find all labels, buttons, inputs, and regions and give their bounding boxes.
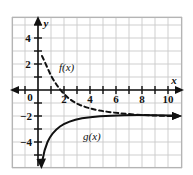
- x-tick-label-10: 10: [163, 93, 175, 105]
- graph-figure: 4 2 0 −2 −4 2 4 6 8 10 y x f(x) g(x): [0, 0, 193, 175]
- g-curve-label: g(x): [83, 130, 101, 143]
- x-tick-label-8: 8: [139, 93, 145, 105]
- y-axis-label: y: [42, 17, 49, 29]
- y-tick-label-neg2: −2: [20, 110, 32, 122]
- x-axis-label: x: [170, 74, 177, 86]
- f-curve-label: f(x): [59, 61, 75, 74]
- y-tick-label-neg4: −4: [20, 136, 32, 148]
- coordinate-plane-svg: 4 2 0 −2 −4 2 4 6 8 10 y x f(x) g(x): [0, 0, 193, 175]
- x-tick-label-4: 4: [87, 93, 93, 105]
- y-tick-label-2: 2: [25, 58, 31, 70]
- y-tick-label-4: 4: [25, 32, 31, 44]
- origin-label-0: 0: [27, 91, 33, 103]
- x-tick-label-6: 6: [113, 93, 119, 105]
